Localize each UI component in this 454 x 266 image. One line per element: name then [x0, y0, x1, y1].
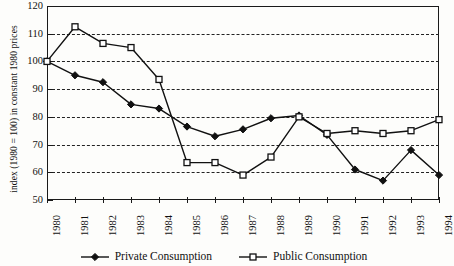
legend-entry-2[interactable]: Public Consumption	[238, 251, 367, 263]
data-point-marker	[44, 58, 50, 64]
x-tick-label: 1988	[276, 215, 287, 236]
y-tick-label: 90	[33, 84, 44, 95]
data-point-marker	[184, 160, 190, 166]
series-line	[47, 27, 439, 175]
x-tick-label: 1987	[248, 215, 259, 236]
y-tick-label: 60	[33, 167, 44, 178]
plot-area	[47, 6, 439, 200]
data-point-marker	[324, 130, 330, 136]
data-point-marker	[352, 128, 358, 134]
x-tick-label: 1983	[136, 215, 147, 236]
x-tick-label: 1982	[108, 215, 119, 236]
y-tick-label: 50	[33, 195, 44, 206]
x-tick-label: 1986	[220, 215, 231, 236]
data-point-marker	[239, 126, 246, 133]
y-tick-label: 70	[33, 139, 44, 150]
data-point-marker	[156, 76, 162, 82]
x-tick-label: 1981	[80, 215, 91, 236]
data-point-marker	[267, 115, 274, 122]
data-point-marker	[72, 24, 78, 30]
x-tick-label: 1994	[444, 215, 454, 236]
x-tick-label: 1989	[304, 215, 315, 236]
data-point-marker	[268, 154, 274, 160]
x-tick-label: 1984	[164, 215, 175, 236]
data-point-marker	[240, 172, 246, 178]
data-point-marker	[155, 105, 162, 112]
x-tick-label: 1992	[388, 215, 399, 236]
x-tick-label: 1985	[192, 215, 203, 236]
series-1	[43, 58, 442, 184]
x-tick-mark	[439, 197, 440, 203]
data-point-marker	[183, 123, 190, 130]
y-tick-label: 80	[33, 112, 44, 123]
x-tick-label: 1991	[360, 215, 371, 236]
series-2	[44, 24, 442, 178]
data-point-marker	[436, 117, 442, 123]
series-line	[47, 61, 439, 180]
chart-legend: Private ConsumptionPublic Consumption	[0, 251, 447, 263]
y-tick-label: 110	[28, 28, 43, 39]
data-point-marker	[296, 114, 302, 120]
data-point-marker	[128, 45, 134, 51]
y-axis-title: index (1980 = 100) in constant 1980 pric…	[9, 9, 19, 209]
open-square-icon	[238, 251, 268, 263]
legend-entry-1[interactable]: Private Consumption	[80, 251, 212, 263]
y-tick-label: 100	[27, 56, 43, 67]
data-point-marker	[71, 72, 78, 79]
legend-label: Public Consumption	[273, 251, 367, 263]
x-tick-label: 1980	[52, 215, 63, 236]
data-point-marker	[211, 133, 218, 140]
legend-label: Private Consumption	[115, 251, 212, 263]
data-point-marker	[100, 40, 106, 46]
data-point-marker	[408, 128, 414, 134]
filled-diamond-icon	[80, 251, 110, 263]
data-point-marker	[380, 130, 386, 136]
series-plot	[47, 6, 439, 200]
x-tick-label: 1990	[332, 215, 343, 236]
x-tick-label: 1993	[416, 215, 427, 236]
data-point-marker	[212, 160, 218, 166]
y-tick-label: 120	[27, 1, 43, 12]
